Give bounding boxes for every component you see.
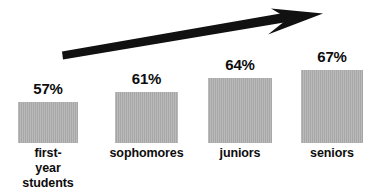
bar-group-3: 67% seniors [301, 70, 363, 143]
bar-label-seniors: seniors [310, 146, 354, 161]
bar-value-0: 57% [33, 80, 62, 97]
bar-label-sophomores: sophomores [109, 146, 183, 161]
plot-area: 57% first-year students 61% sophomores 6… [0, 0, 381, 193]
bar-value-3: 67% [317, 48, 346, 65]
bar-value-1: 61% [132, 70, 161, 87]
bar-chart: 57% first-year students 61% sophomores 6… [0, 0, 381, 193]
bar-label-juniors: juniors [220, 146, 261, 161]
bar-label-first-year-students: first-year students [22, 146, 73, 191]
bar-juniors [208, 78, 272, 143]
bar-group-1: 61% sophomores [115, 92, 178, 143]
bar-first-year-students [18, 102, 78, 143]
bar-seniors [301, 70, 363, 143]
bar-group-2: 64% juniors [208, 78, 272, 143]
bar-group-0: 57% first-year students [18, 102, 78, 143]
bar-sophomores [115, 92, 178, 143]
bar-value-2: 64% [225, 56, 254, 73]
